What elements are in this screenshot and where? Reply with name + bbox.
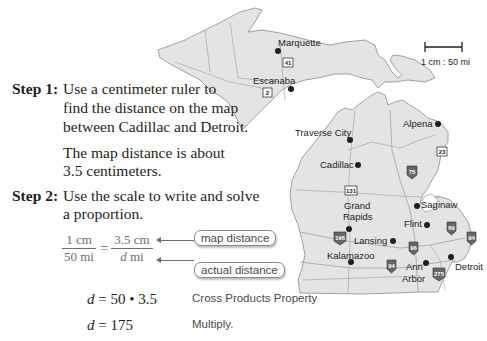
variable-d: d — [87, 291, 95, 307]
fraction-left: 1 cm 50 mi — [62, 232, 96, 265]
fraction-left-numerator: 1 cm — [62, 232, 96, 249]
svg-text:75: 75 — [409, 169, 416, 175]
city-label-alpena: Alpena — [403, 118, 433, 129]
fraction-right: 3.5 cm d mi — [111, 232, 153, 265]
proportion-equals: = — [100, 240, 108, 257]
city-label-grand-rapids-line2: Rapids — [343, 211, 373, 222]
work-line-1: d = 50 • 3.5 — [87, 291, 157, 308]
city-label-flint: Flint — [404, 218, 422, 229]
fraction-right-numerator: 3.5 cm — [111, 232, 153, 249]
city-label-traverse-city: Traverse City — [295, 127, 351, 138]
svg-text:23: 23 — [439, 149, 446, 155]
svg-text:131: 131 — [346, 188, 357, 194]
step2-line2: a proportion. — [63, 205, 143, 223]
svg-text:275: 275 — [434, 271, 445, 277]
step1-label: Step 1: — [12, 80, 58, 98]
work-expression-2: = 175 — [95, 317, 133, 333]
work-reason-1: Cross Products Property — [192, 292, 317, 304]
step1-line3: between Cadillac and Detroit. — [63, 118, 248, 136]
step1-line1: Use a centimeter ruler to — [63, 80, 216, 98]
city-label-kalamazoo: Kalamazoo — [327, 250, 375, 261]
step1-line2: find the distance on the map — [63, 99, 238, 117]
step2-label: Step 2: — [12, 187, 58, 205]
svg-text:69: 69 — [448, 225, 455, 231]
arrow-map-distance — [160, 240, 194, 241]
city-label-ann-arbor-line1: Ann — [406, 261, 423, 272]
variable-d: d — [87, 317, 95, 333]
step1-result-line2: 3.5 centimeters. — [63, 162, 162, 180]
city-label-detroit: Detroit — [455, 261, 483, 272]
step1-result-line1: The map distance is about — [63, 144, 225, 162]
city-label-cadillac: Cadillac — [320, 159, 354, 170]
svg-text:94: 94 — [468, 235, 475, 241]
work-expression-1: = 50 • 3.5 — [95, 291, 157, 307]
step2-line1: Use the scale to write and solve — [63, 187, 259, 205]
city-label-lansing: Lansing — [354, 235, 387, 246]
svg-text:41: 41 — [285, 60, 292, 66]
city-label-ann-arbor-line2: Arbor — [402, 273, 425, 284]
city-label-marquette: Marquette — [278, 37, 321, 48]
fraction-left-denominator: 50 mi — [62, 249, 96, 265]
callout-map-distance: map distance — [194, 230, 276, 246]
city-label-saginaw: Saginaw — [421, 199, 457, 210]
svg-text:94: 94 — [388, 263, 395, 269]
map-scale-label: 1 cm : 50 mi — [421, 57, 470, 67]
arrow-actual-distance — [160, 260, 194, 261]
scale-bar — [425, 42, 462, 52]
work-reason-2: Multiply. — [192, 318, 233, 330]
callout-actual-distance: actual distance — [194, 262, 285, 278]
fraction-right-denominator: d mi — [111, 249, 153, 265]
svg-text:96: 96 — [410, 245, 417, 251]
work-line-2: d = 175 — [87, 317, 133, 334]
svg-text:196: 196 — [335, 235, 346, 241]
unit-mi: mi — [127, 249, 144, 264]
city-label-grand-rapids-line1: Grand — [344, 200, 370, 211]
city-label-escanaba: Escanaba — [253, 75, 295, 86]
